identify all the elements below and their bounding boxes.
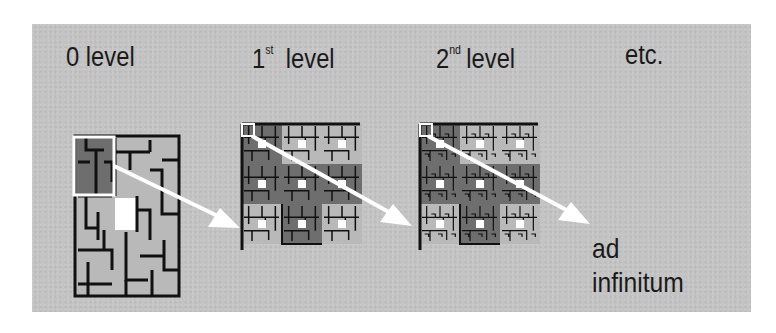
maze-tile-center bbox=[258, 180, 266, 188]
maze-tile-center bbox=[298, 140, 306, 148]
maze-level-0 bbox=[74, 135, 180, 297]
maze-tile-center bbox=[436, 220, 444, 228]
maze-tile-center bbox=[436, 180, 444, 188]
maze-tile bbox=[500, 124, 540, 164]
maze-tile bbox=[460, 204, 500, 244]
maze-tile bbox=[420, 204, 460, 244]
maze-tile bbox=[282, 204, 322, 244]
maze-tile bbox=[322, 124, 362, 164]
diagram-graphics bbox=[0, 0, 776, 333]
maze-tile bbox=[242, 204, 282, 244]
arrow-1-head bbox=[208, 208, 240, 228]
maze-tile-center bbox=[338, 220, 346, 228]
maze-tile-center bbox=[476, 140, 484, 148]
maze-tile bbox=[242, 164, 282, 204]
maze-tile-center bbox=[516, 140, 524, 148]
maze-tile bbox=[242, 124, 282, 164]
maze-tile bbox=[322, 204, 362, 244]
maze-0-center-cell bbox=[115, 198, 137, 230]
maze-tile-center bbox=[258, 220, 266, 228]
maze-tile-center bbox=[338, 140, 346, 148]
maze-tile bbox=[420, 164, 460, 204]
maze-tile-center bbox=[516, 220, 524, 228]
maze-tile-center bbox=[476, 220, 484, 228]
maze-tile-center bbox=[298, 220, 306, 228]
maze-tile-center bbox=[298, 180, 306, 188]
arrow-2-head bbox=[380, 204, 412, 226]
maze-tile-center bbox=[476, 180, 484, 188]
maze-tile bbox=[500, 204, 540, 244]
arrow-3-head bbox=[558, 202, 590, 224]
